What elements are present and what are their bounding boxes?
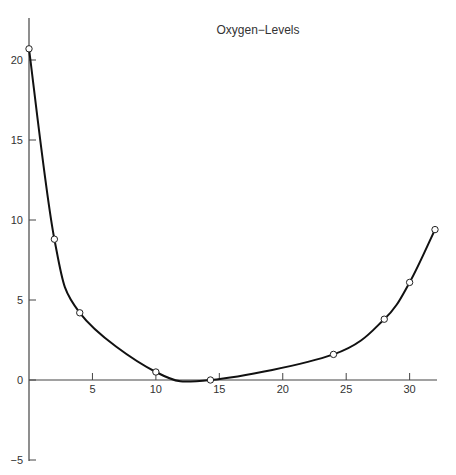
data-point	[207, 377, 213, 383]
x-tick-label: 30	[404, 383, 416, 395]
data-point	[77, 310, 83, 316]
y-tick-label: 0	[17, 374, 23, 386]
x-tick-label: 20	[277, 383, 289, 395]
x-tick-label: 5	[89, 383, 95, 395]
y-tick-label: −5	[10, 454, 23, 466]
x-tick-label: 25	[340, 383, 352, 395]
y-tick-label: 10	[11, 214, 23, 226]
series-line	[29, 49, 435, 382]
x-tick-label: 15	[213, 383, 225, 395]
data-point	[51, 236, 57, 242]
x-tick-label: 10	[150, 383, 162, 395]
chart-title: Oxygen−Levels	[216, 23, 299, 37]
y-tick-label: 20	[11, 54, 23, 66]
data-point	[26, 46, 32, 52]
y-tick-label: 15	[11, 134, 23, 146]
curve-layer	[29, 49, 435, 382]
y-tick-label: 5	[17, 294, 23, 306]
axes: 51015202530−505101520	[10, 18, 437, 466]
data-point	[330, 351, 336, 357]
data-point	[432, 226, 438, 232]
data-point	[153, 369, 159, 375]
data-point	[406, 279, 412, 285]
data-point	[381, 316, 387, 322]
marker-layer	[26, 46, 438, 384]
oxygen-levels-chart: Oxygen−Levels 51015202530−505101520	[0, 0, 456, 475]
